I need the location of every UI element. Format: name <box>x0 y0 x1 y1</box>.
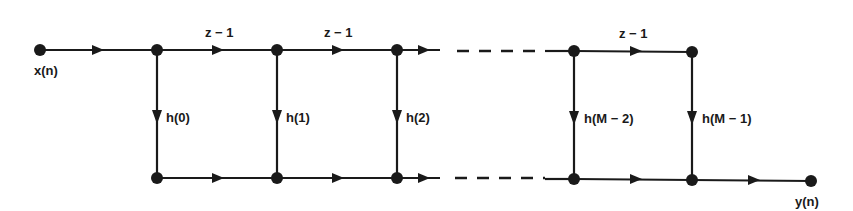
arrow-down-icon <box>569 111 579 125</box>
arrow-right-icon <box>92 45 104 55</box>
arrow-down-icon <box>392 110 402 124</box>
output-node <box>805 175 817 187</box>
arrow-right-icon <box>630 174 642 184</box>
delay-label-last: z − 1 <box>619 26 648 41</box>
arrow-right-icon <box>332 45 344 55</box>
arrow-right-icon <box>332 173 344 183</box>
delay-line <box>40 45 692 56</box>
delay-label-2: z − 1 <box>324 25 353 40</box>
summation-line <box>157 173 811 185</box>
sum-node-2 <box>391 172 403 184</box>
coefficient-label-h0: h(0) <box>166 110 190 125</box>
arrow-right-icon <box>418 173 430 183</box>
arrow-down-icon <box>687 111 697 125</box>
coefficient-label-h1: h(1) <box>286 110 310 125</box>
input-label: x(n) <box>34 63 58 78</box>
sum-node-1 <box>271 172 283 184</box>
arrow-right-icon <box>212 45 224 55</box>
sum-node-0 <box>151 172 163 184</box>
coefficient-label-h2: h(2) <box>406 110 430 125</box>
coefficient-label-hm1: h(M − 1) <box>702 111 751 126</box>
sum-node-m1 <box>686 174 698 186</box>
arrow-right-icon <box>748 175 760 185</box>
delay-label-1: z − 1 <box>205 25 234 40</box>
arrow-down-icon <box>152 110 162 124</box>
arrow-right-icon <box>212 173 224 183</box>
arrow-down-icon <box>272 110 282 124</box>
input-node <box>34 44 46 56</box>
coefficient-label-hm2: h(M − 2) <box>584 111 633 126</box>
arrow-right-icon <box>630 46 642 56</box>
sum-node-m2 <box>568 173 580 185</box>
output-label: y(n) <box>795 194 819 209</box>
arrow-right-icon <box>418 45 430 55</box>
fir-filter-diagram: z − 1 z − 1 z − 1 x(n) h(0) h(1) h(2) h(… <box>0 0 853 211</box>
